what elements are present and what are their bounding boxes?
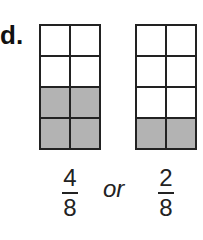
- denominator: 8: [159, 196, 172, 217]
- grid-cell-shaded: [137, 119, 165, 148]
- fraction-left: 4 8: [62, 166, 78, 217]
- grid-cell: [137, 57, 165, 86]
- problem-label: d.: [0, 22, 23, 48]
- grid-cell: [167, 57, 195, 86]
- grid-cell-shaded: [167, 119, 195, 148]
- fraction-right: 2 8: [158, 166, 174, 217]
- fraction-grid-left: [39, 24, 101, 150]
- or-connector: or: [103, 177, 124, 201]
- grid-cell: [71, 26, 99, 55]
- grid-cell: [137, 88, 165, 117]
- grid-cell: [137, 26, 165, 55]
- denominator: 8: [63, 196, 76, 217]
- grid-cell-shaded: [71, 119, 99, 148]
- numerator: 2: [159, 166, 172, 190]
- grid-cell-shaded: [41, 88, 69, 117]
- grid-cell-shaded: [71, 88, 99, 117]
- grid-cell: [71, 57, 99, 86]
- grid-cell: [41, 26, 69, 55]
- grid-cell: [41, 57, 69, 86]
- grid-cell: [167, 88, 195, 117]
- grid-cell: [167, 26, 195, 55]
- grid-cell-shaded: [41, 119, 69, 148]
- fraction-grid-right: [135, 24, 197, 150]
- numerator: 4: [63, 166, 76, 190]
